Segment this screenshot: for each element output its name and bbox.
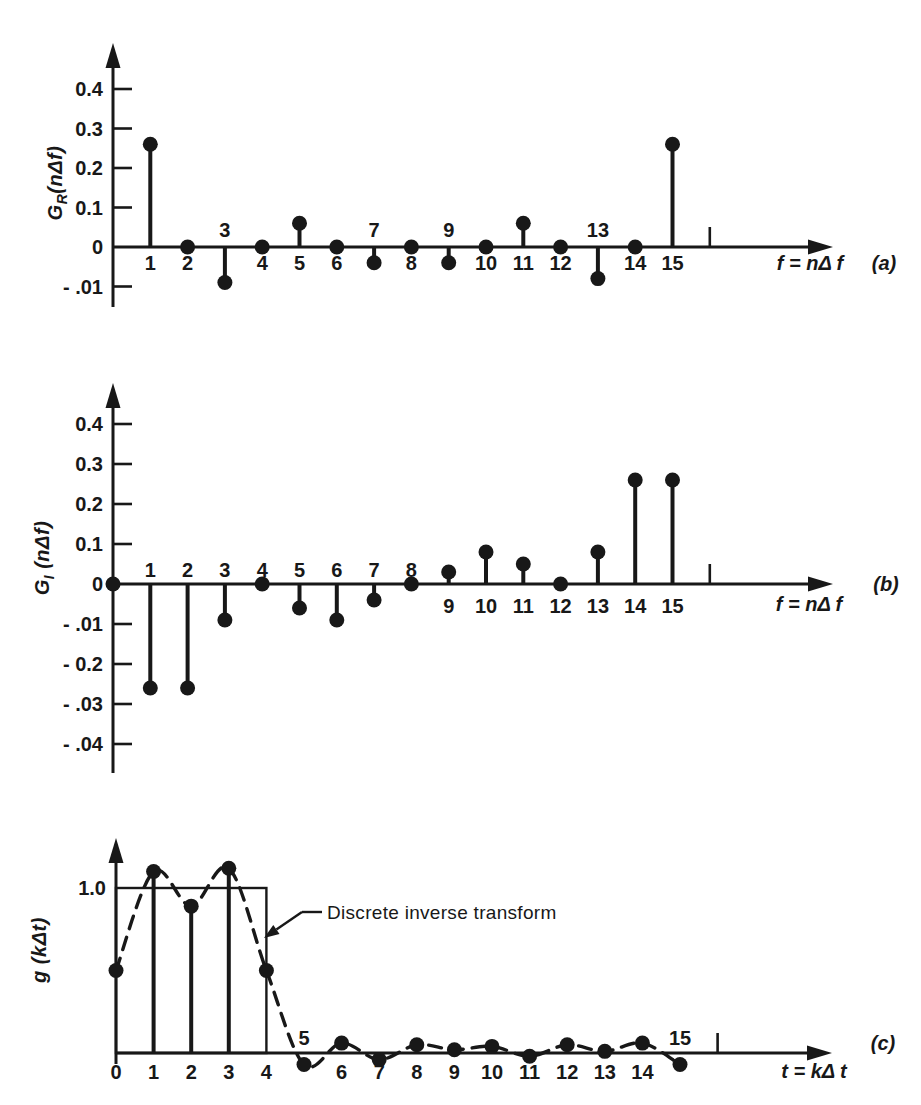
x-tick-label: 14: [624, 252, 647, 274]
data-point: [221, 861, 236, 876]
x-tick-label: 6: [331, 252, 342, 274]
plot-c-ylabel: g (kΔt): [28, 917, 54, 983]
x-tick-label: 11: [513, 252, 534, 274]
y-tick-label: - .03: [63, 693, 103, 715]
data-point: [329, 613, 344, 628]
data-point: [590, 545, 605, 560]
x-tick-label: 10: [475, 252, 497, 274]
x-tick-label: 10: [481, 1061, 503, 1083]
y-tick-label: 1.0: [78, 877, 106, 899]
x-tick-label: 6: [331, 559, 342, 581]
data-point: [516, 216, 531, 231]
data-point: [635, 1036, 650, 1051]
y-tick-label: 0.2: [75, 157, 103, 179]
data-point: [665, 137, 680, 152]
plot-a-ylabel-base: G: [44, 204, 66, 220]
plot-b-ylabel-rest: (nΔf): [31, 521, 53, 575]
x-tick-label: 5: [294, 559, 305, 581]
data-point: [441, 565, 456, 580]
y-axis-arrow-icon: [106, 383, 121, 408]
x-tick-label: 8: [406, 252, 417, 274]
x-tick-label: 4: [257, 559, 269, 581]
y-tick-label: - .01: [63, 613, 103, 635]
x-tick-label: 12: [549, 595, 571, 617]
plot-b-xlabel: f = nΔ f: [776, 593, 843, 616]
data-point: [590, 271, 605, 286]
plot-a-ylabel: GR(nΔf): [44, 146, 70, 221]
data-point: [665, 473, 680, 488]
y-axis-arrow-icon: [109, 838, 124, 863]
x-tick-label: 14: [624, 595, 647, 617]
y-tick-label: - .04: [63, 733, 104, 755]
x-tick-label: 8: [406, 559, 417, 581]
x-tick-label: 7: [369, 219, 380, 241]
x-tick-label: 11: [513, 595, 534, 617]
plot-a: 0.40.30.20.10- .01123456789101112131415: [63, 43, 833, 307]
data-point: [553, 577, 568, 592]
x-tick-label: 13: [587, 219, 609, 241]
plot-b-panel-label: (b): [873, 573, 899, 596]
x-tick-label: 12: [549, 252, 571, 274]
x-axis-arrow-icon: [807, 1046, 832, 1061]
x-axis-arrow-icon: [808, 577, 833, 592]
x-tick-label: 15: [661, 595, 683, 617]
data-point: [334, 1036, 349, 1051]
x-tick-label: 1: [148, 1061, 159, 1083]
figure-plot-canvas: 0.40.30.20.10- .011234567891011121314150…: [0, 0, 921, 1105]
inverse-transform-curve: [116, 867, 680, 1068]
plot-c-ylabel-rest: (kΔt): [28, 917, 50, 970]
x-tick-label: 3: [219, 219, 230, 241]
x-tick-label: 2: [186, 1061, 197, 1083]
x-tick-label: 14: [631, 1061, 654, 1083]
plot-b-ylabel-base: G: [31, 579, 53, 595]
data-point: [297, 1057, 312, 1072]
plot-b-ylabel-sub: I: [41, 575, 57, 579]
data-point: [485, 1039, 500, 1054]
data-point: [673, 1057, 688, 1072]
y-tick-label: 0.2: [75, 493, 103, 515]
data-point: [409, 1037, 424, 1052]
x-tick-label: 2: [182, 252, 193, 274]
y-tick-label: 0.4: [75, 78, 104, 100]
data-point: [479, 545, 494, 560]
x-tick-label: 10: [475, 595, 497, 617]
y-tick-label: - .01: [63, 276, 103, 298]
x-tick-label: 1: [145, 559, 156, 581]
x-tick-label: 12: [556, 1061, 578, 1083]
plot-a-panel-label: (a): [872, 252, 896, 275]
x-tick-label: 3: [223, 1061, 234, 1083]
x-tick-label: 4: [257, 252, 269, 274]
plot-c-panel-label: (c): [871, 1032, 895, 1055]
data-point: [143, 681, 158, 696]
y-axis-arrow-icon: [106, 43, 121, 68]
discrete-inverse-transform-annotation: Discrete inverse transform: [327, 902, 557, 924]
data-point: [441, 255, 456, 270]
x-tick-label: 0: [110, 1061, 121, 1083]
plot-a-xlabel: f = nΔ f: [777, 252, 844, 275]
data-point: [109, 963, 124, 978]
plot-c: 1.00123456789101112131415: [78, 838, 832, 1083]
x-tick-label: 15: [669, 1027, 691, 1049]
y-tick-label: 0.1: [75, 533, 103, 555]
x-tick-label: 7: [369, 559, 380, 581]
x-tick-label: 15: [661, 252, 683, 274]
data-point: [292, 601, 307, 616]
x-tick-label: 1: [145, 252, 156, 274]
data-point: [217, 613, 232, 628]
x-tick-label: 9: [443, 595, 454, 617]
data-point: [447, 1042, 462, 1057]
x-tick-label: 2: [182, 559, 193, 581]
data-point: [180, 681, 195, 696]
y-tick-label: 0.3: [75, 453, 103, 475]
plot-c-ylabel-base: g: [28, 970, 50, 983]
x-tick-label: 7: [374, 1061, 385, 1083]
plot-b-ylabel: GI (nΔf): [31, 521, 57, 596]
plot-a-ylabel-rest: (nΔf): [44, 146, 66, 194]
data-point: [597, 1044, 612, 1059]
y-tick-label: 0: [92, 236, 103, 258]
y-tick-label: 0.1: [75, 197, 103, 219]
data-point: [146, 864, 161, 879]
plot-a-ylabel-sub: R: [54, 194, 70, 205]
data-point: [184, 899, 199, 914]
data-point: [217, 275, 232, 290]
